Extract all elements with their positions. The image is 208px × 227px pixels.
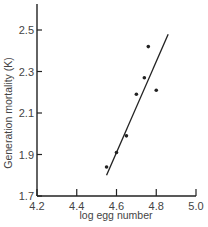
x-tick-label: 5.0 bbox=[188, 200, 203, 212]
y-tick-label: 2.5 bbox=[19, 24, 34, 36]
scatter-chart: 4.24.44.64.85.0 1.71.92.12.32.5 log egg … bbox=[0, 0, 208, 227]
data-point bbox=[147, 45, 151, 49]
y-tick-label: 2.3 bbox=[19, 66, 34, 78]
y-tick-label: 1.9 bbox=[19, 149, 34, 161]
data-points bbox=[105, 45, 158, 169]
y-tick-label: 2.1 bbox=[19, 107, 34, 119]
y-tick-label: 1.7 bbox=[19, 190, 34, 202]
axes bbox=[37, 4, 196, 196]
data-point bbox=[115, 151, 119, 155]
y-axis-title: Generation mortality (K) bbox=[2, 57, 14, 168]
y-axis-ticks: 1.71.92.12.32.5 bbox=[19, 24, 42, 202]
data-point bbox=[105, 165, 109, 169]
data-point bbox=[125, 134, 129, 138]
x-axis-title: log egg number bbox=[80, 209, 153, 221]
data-point bbox=[154, 88, 158, 92]
data-point bbox=[143, 76, 147, 80]
data-point bbox=[135, 93, 139, 97]
